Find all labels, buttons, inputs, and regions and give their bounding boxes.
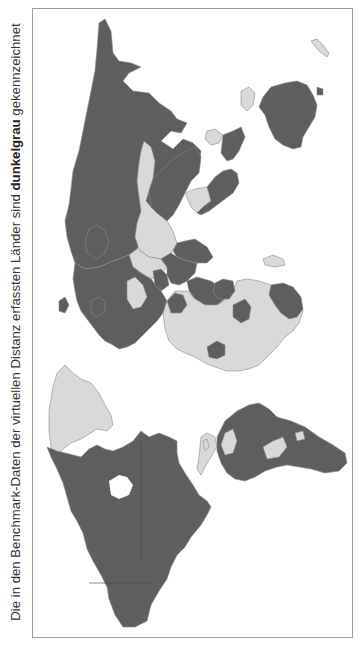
caption-suffix: gekennzeichnet (8, 23, 23, 119)
caption-bold-term: dunkelgrau (8, 119, 23, 190)
region-tasmania (317, 87, 323, 95)
region-australia (259, 81, 317, 149)
world-map (33, 9, 354, 639)
region-new-zealand (311, 39, 329, 57)
region-madagascar (263, 255, 285, 267)
region-papua (241, 87, 255, 111)
caption-prefix: Die in den Benchmark-Daten der virtuelle… (8, 190, 23, 620)
map-frame (32, 8, 353, 638)
region-indonesia-east (221, 127, 245, 161)
region-russia (65, 19, 201, 269)
map-caption: Die in den Benchmark-Daten der virtuelle… (8, 12, 24, 632)
region-canada (47, 431, 211, 627)
region-greenland (49, 365, 113, 457)
region-iceland (59, 297, 69, 313)
region-uruguay (295, 431, 305, 441)
region-philippines (205, 129, 223, 145)
